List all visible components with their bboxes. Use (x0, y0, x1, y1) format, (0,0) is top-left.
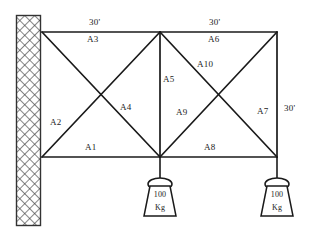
load-unit-right: Kg (267, 204, 287, 212)
member-label-A6: A6 (208, 35, 219, 44)
load-value-middle: 100 (150, 191, 170, 199)
dimension-label-right-height: 30' (284, 104, 295, 113)
member-label-A10: A10 (197, 60, 213, 69)
member-label-A3: A3 (87, 35, 98, 44)
member-label-A2: A2 (50, 118, 61, 127)
member-label-A7: A7 (257, 107, 268, 116)
member-label-A9: A9 (176, 108, 187, 117)
member-label-A8: A8 (204, 143, 215, 152)
dimension-label-top-right-span: 30' (209, 18, 220, 27)
support-wall (17, 16, 41, 226)
member-label-A4: A4 (120, 103, 131, 112)
load-unit-middle: Kg (150, 204, 170, 212)
dimension-label-top-left-span: 30' (89, 18, 100, 27)
member-label-A5: A5 (163, 75, 174, 84)
truss-diagram: 30' 30' 30' A3 A2 A1 A4 A5 A6 A10 A9 A7 … (0, 0, 311, 232)
load-value-right: 100 (267, 191, 287, 199)
member-label-A1: A1 (85, 143, 96, 152)
